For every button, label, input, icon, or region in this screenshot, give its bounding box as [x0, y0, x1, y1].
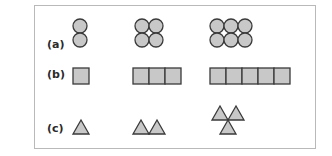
triangle-icon	[73, 120, 89, 134]
circle-icon	[73, 19, 87, 33]
square-icon	[133, 68, 149, 84]
shapes-diagram	[0, 0, 332, 156]
circle-icon	[238, 19, 252, 33]
triangle-group-1	[73, 120, 89, 134]
triangle-icon	[228, 106, 244, 120]
square-group-3	[133, 68, 181, 84]
square-group-1	[73, 68, 89, 84]
circle-icon	[210, 33, 224, 47]
circle-icon	[73, 33, 87, 47]
square-icon	[149, 68, 165, 84]
triangle-icon	[133, 120, 149, 134]
triangle-group-2	[133, 120, 165, 134]
square-icon	[258, 68, 274, 84]
circle-icon	[149, 33, 163, 47]
circle-icon	[224, 19, 238, 33]
square-icon	[73, 68, 89, 84]
square-icon	[165, 68, 181, 84]
square-icon	[226, 68, 242, 84]
circle-icon	[224, 33, 238, 47]
triangle-icon	[212, 106, 228, 120]
triangle-icon	[220, 120, 236, 134]
circle-icon	[210, 19, 224, 33]
square-icon	[242, 68, 258, 84]
triangle-icon	[149, 120, 165, 134]
circle-group-4	[135, 19, 163, 47]
circle-icon	[238, 33, 252, 47]
square-icon	[274, 68, 290, 84]
circle-group-6	[210, 19, 252, 47]
square-group-5	[210, 68, 290, 84]
circle-icon	[135, 19, 149, 33]
triangle-group-3	[212, 106, 244, 134]
circle-group-2	[73, 19, 87, 47]
square-icon	[210, 68, 226, 84]
circle-icon	[135, 33, 149, 47]
circle-icon	[149, 19, 163, 33]
